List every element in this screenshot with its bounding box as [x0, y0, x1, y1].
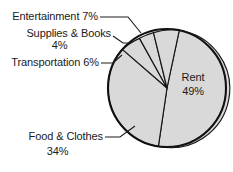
pie-label-rent-value: 49% [167, 85, 219, 98]
leader-line-supplies-and-books [113, 36, 131, 43]
pie-label-food-and-clothes: Food & Clothes [12, 130, 103, 143]
pie-label-transportation: Transportation 6% [0, 56, 99, 69]
pie-label-entertainment: Entertainment 7% [2, 10, 98, 23]
pie-chart: Entertainment 7% Supplies & Books 4% Tra… [0, 0, 233, 172]
pie-label-rent: Rent [167, 71, 219, 84]
pie-label-supplies-and-books-value: 4% [8, 39, 111, 52]
pie-label-food-and-clothes-value: 34% [12, 145, 103, 158]
pie-label-supplies-and-books: Supplies & Books [8, 27, 111, 40]
